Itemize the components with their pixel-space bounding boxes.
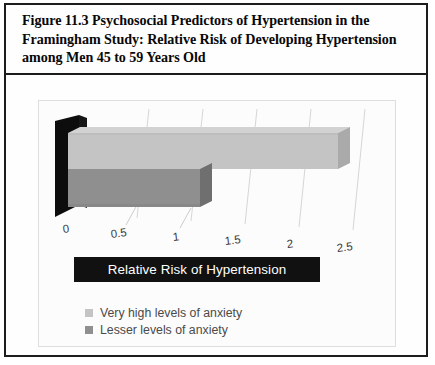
legend-item-lesser-anxiety: Lesser levels of anxiety — [85, 321, 242, 338]
page-title: Figure 11.3 Psychosocial Predictors of H… — [22, 11, 414, 67]
tick-label-0: 0 — [62, 222, 70, 235]
figure-title-block: Figure 11.3 Psychosocial Predictors of H… — [6, 5, 426, 75]
tick-label-1: 1 — [172, 230, 180, 243]
legend-label-lesser: Lesser levels of anxiety — [100, 323, 228, 337]
tick-label-0-5: 0.5 — [110, 226, 127, 240]
tick-label-2: 2 — [286, 237, 294, 250]
legend-swatch-icon-very-high — [85, 309, 93, 317]
legend-item-very-high-anxiety: Very high levels of anxiety — [85, 304, 242, 321]
legend-swatch-icon-lesser — [85, 326, 93, 334]
tick-label-1-5: 1.5 — [224, 233, 241, 247]
figure-container: Figure 11.3 Psychosocial Predictors of H… — [4, 3, 428, 357]
x-axis-title: Relative Risk of Hypertension — [108, 262, 287, 277]
x-axis-title-bar: Relative Risk of Hypertension — [74, 257, 320, 282]
chart-legend: Very high levels of anxiety Lesser level… — [85, 304, 242, 338]
legend-label-very-high: Very high levels of anxiety — [100, 306, 242, 320]
tick-label-2-5: 2.5 — [336, 240, 353, 254]
